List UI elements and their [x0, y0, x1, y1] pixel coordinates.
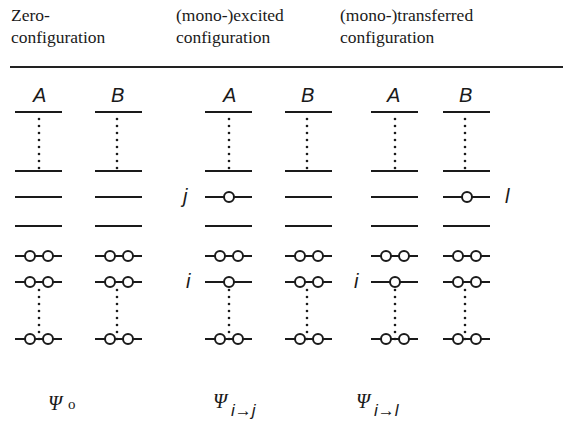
orbital-label-j: j	[180, 185, 188, 207]
psi-symbol: Ψ	[213, 390, 227, 412]
wavefunction-transferred: Ψi→l	[356, 390, 399, 413]
psi-symbol: Ψ	[356, 390, 370, 412]
molecule-label-a: A	[222, 84, 236, 106]
molecule-label-a: A	[32, 84, 46, 106]
zero-config-column-b: B	[95, 84, 142, 344]
transferred-config-column-b: B	[443, 84, 490, 344]
psi-subscript: i→j	[231, 401, 256, 420]
excited-config-column-b: B	[285, 84, 332, 344]
excited-config-column-a: A	[205, 84, 252, 344]
wavefunction-excited: Ψi→j	[213, 390, 256, 413]
psi-subscript: o	[68, 396, 76, 412]
psi-subscript: i→l	[374, 401, 399, 420]
molecule-label-b: B	[459, 84, 472, 106]
wavefunction-zero: Ψo	[48, 392, 76, 415]
psi-symbol: Ψ	[48, 392, 62, 414]
molecule-label-a: A	[386, 84, 400, 106]
transferred-config-column-a: A	[371, 84, 418, 344]
zero-config-column-a: A	[15, 84, 62, 344]
molecule-label-b: B	[111, 84, 124, 106]
orbital-diagram: A B j i A B	[0, 0, 573, 441]
orbital-label-l: l	[505, 185, 510, 207]
molecule-label-b: B	[301, 84, 314, 106]
orbital-label-i: i	[186, 270, 191, 292]
orbital-label-i: i	[354, 270, 359, 292]
